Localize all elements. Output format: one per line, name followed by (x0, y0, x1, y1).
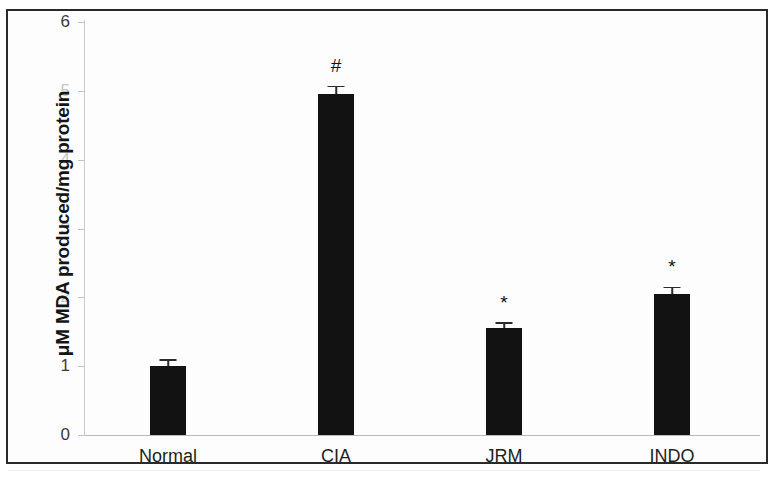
error-bar-cap (496, 322, 513, 324)
error-bar (335, 87, 337, 94)
bar[interactable] (486, 328, 522, 435)
bar-group[interactable]: * (420, 22, 588, 435)
x-axis-category-label: CIA (252, 443, 420, 469)
x-axis-category-label: JRM (420, 443, 588, 469)
x-axis-category-label: INDO (588, 443, 756, 469)
bar-group[interactable]: * (588, 22, 756, 435)
significance-marker: # (331, 56, 342, 75)
x-axis-labels: NormalCIAJRMINDO (84, 443, 756, 473)
figure-container: 6543210 μM MDA produced/mg protein #** N… (0, 0, 776, 477)
plot-area: #** (84, 22, 756, 435)
scan-artifact (8, 470, 760, 471)
y-tick-mark (78, 435, 85, 436)
significance-marker: * (668, 257, 675, 276)
y-axis-title: μM MDA produced/mg protein (50, 17, 76, 430)
bar-group[interactable]: # (252, 22, 420, 435)
error-bar (671, 288, 673, 294)
error-bar (167, 361, 169, 367)
significance-marker: * (500, 293, 507, 312)
error-bar-cap (328, 86, 345, 88)
bar[interactable] (654, 294, 690, 435)
error-bar-cap (664, 287, 681, 289)
x-axis-category-label: Normal (84, 443, 252, 469)
error-bar-cap (160, 359, 177, 361)
error-bar (503, 324, 505, 329)
bar[interactable] (318, 94, 354, 435)
x-axis-line (84, 435, 760, 436)
bar-group[interactable] (84, 22, 252, 435)
bar[interactable] (150, 366, 186, 435)
